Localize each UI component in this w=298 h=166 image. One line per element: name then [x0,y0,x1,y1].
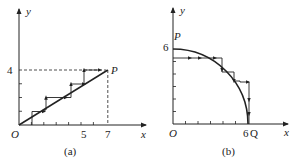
x-axis-label-b: x [283,126,289,138]
origin-label-b: O [169,127,177,139]
caption-a: (a) [64,145,77,158]
x-tick-label-5: 5 [81,128,87,140]
x-tick-label-6: 6 [243,127,249,139]
staircase-path-b [173,58,249,124]
point-label-p-b: P [173,30,181,42]
figure-a: y x O 5 7 4 P (a) [7,5,146,158]
diagram-canvas: y x O 5 7 4 P (a) [0,0,298,166]
y-tick-label-6: 6 [163,41,169,53]
quarter-circle-pq [173,49,248,124]
x-axis-label-a: x [140,128,146,140]
caption-b: (b) [222,145,235,158]
y-tick-label-4: 4 [7,64,13,76]
figure-b: y x O 6 P 6 Q (b) [163,4,289,158]
point-label-q-b: Q [250,127,258,139]
x-tick-label-7: 7 [105,128,111,140]
y-axis-label-b: y [179,4,185,16]
staircase-path-a [32,70,100,125]
origin-label-a: O [11,128,19,140]
point-label-p-a: P [110,64,118,76]
y-axis-label-a: y [25,5,31,17]
